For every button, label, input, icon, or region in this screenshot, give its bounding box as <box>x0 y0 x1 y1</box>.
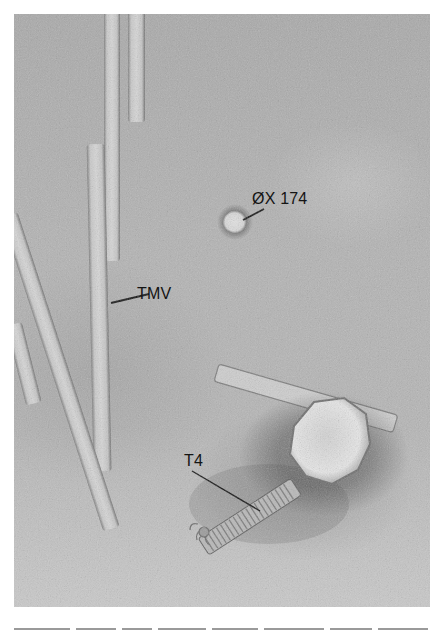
caption-fragment <box>122 628 152 630</box>
label-tmv: TMV <box>137 286 171 302</box>
micrograph-figure: ØX 174 TMV T4 <box>14 14 430 607</box>
label-phix174: ØX 174 <box>252 191 307 207</box>
caption-fragment <box>158 628 206 630</box>
caption-fragment <box>330 628 372 630</box>
caption-fragment <box>378 628 428 630</box>
micrograph-image <box>14 14 430 607</box>
caption-fragment <box>76 628 116 630</box>
figure-caption <box>14 628 430 633</box>
label-t4: T4 <box>184 453 203 469</box>
caption-fragment <box>264 628 324 630</box>
caption-fragment <box>14 628 70 630</box>
film-grain <box>14 14 430 607</box>
caption-fragment <box>212 628 258 630</box>
